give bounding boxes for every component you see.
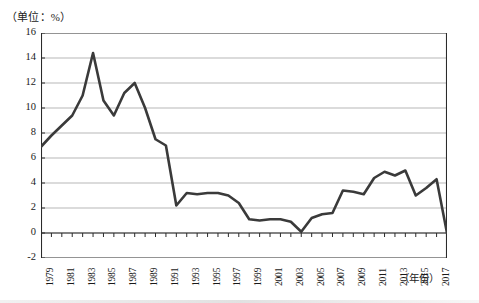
y-axis-unit-label: （单位：%） <box>6 8 71 24</box>
x-tick-label: 1991 <box>170 268 180 286</box>
y-tick-label: -2 <box>8 252 36 263</box>
y-tick-label: 4 <box>8 177 36 188</box>
x-tick-label: 1997 <box>232 268 242 286</box>
x-tick-label: 2007 <box>336 268 346 286</box>
y-tick-label: 10 <box>8 102 36 113</box>
x-tick-label: 2009 <box>357 268 367 286</box>
x-tick-label: 1985 <box>107 268 117 286</box>
y-tick-label: 16 <box>8 27 36 38</box>
x-tick-label: 1979 <box>45 268 55 286</box>
y-tick-label: 14 <box>8 52 36 63</box>
x-tick-label: 1981 <box>66 268 76 286</box>
y-tick-label: 6 <box>8 152 36 163</box>
x-tick-label: 1983 <box>87 268 97 286</box>
x-tick-label: 1989 <box>149 268 159 286</box>
x-axis-caption: （年份） <box>399 270 439 285</box>
chart-figure: （单位：%） 1614121086420-2 19791981198319851… <box>0 0 479 303</box>
y-tick-label: 0 <box>8 227 36 238</box>
line-chart-canvas <box>41 33 447 258</box>
plot-area <box>41 33 447 258</box>
y-tick-label: 12 <box>8 77 36 88</box>
x-tick-label: 2001 <box>274 268 284 286</box>
data-series-line <box>41 53 447 233</box>
x-tick-label: 2017 <box>441 268 451 286</box>
y-tick-label: 2 <box>8 202 36 213</box>
x-tick-label: 2003 <box>295 268 305 286</box>
x-tick-label: 1987 <box>128 268 138 286</box>
x-tick-label: 2011 <box>378 268 388 286</box>
x-tick-label: 1995 <box>212 268 222 286</box>
x-tick-label: 2005 <box>316 268 326 286</box>
x-tick-label: 1999 <box>253 268 263 286</box>
x-tick-label: 1993 <box>191 268 201 286</box>
y-tick-label: 8 <box>8 127 36 138</box>
